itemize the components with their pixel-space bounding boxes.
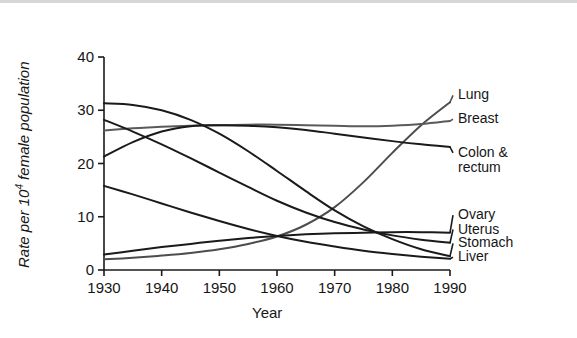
y-tick-label: 10: [46, 208, 94, 225]
series-label-colon-rectum: Colon &rectum: [458, 145, 508, 175]
leader-lines-group: [450, 95, 453, 258]
series-label-line2: rectum: [458, 160, 508, 175]
leader-line-liver: [450, 257, 453, 259]
x-tick-label: 1950: [189, 279, 249, 296]
series-group: [104, 102, 450, 259]
y-tick-label: 30: [46, 101, 94, 118]
series-label-line1: Lung: [458, 87, 489, 102]
y-tick-label: 40: [46, 48, 94, 65]
series-label-lung: Lung: [458, 87, 489, 102]
x-tick-label: 1960: [247, 279, 307, 296]
series-label-liver: Liver: [458, 249, 488, 264]
series-label-line1: Colon &: [458, 145, 508, 160]
series-label-ovary: Ovary: [458, 207, 495, 222]
y-tick-label: 20: [46, 155, 94, 172]
x-tick-label: 1970: [305, 279, 365, 296]
x-tick-label: 1940: [132, 279, 192, 296]
axis-group: [98, 57, 450, 276]
series-label-breast: Breast: [458, 111, 498, 126]
chart-figure: Rate per 104 female population Year 0102…: [0, 0, 577, 338]
series-label-line1: Ovary: [458, 207, 495, 222]
leader-line-stomach: [450, 243, 453, 256]
series-label-line1: Liver: [458, 249, 488, 264]
y-tick-label: 0: [46, 261, 94, 278]
leader-line-lung: [450, 95, 453, 102]
leader-line-breast: [450, 119, 453, 121]
x-tick-label: 1980: [362, 279, 422, 296]
x-tick-label: 1990: [420, 279, 480, 296]
x-tick-label: 1930: [74, 279, 134, 296]
leader-line-colon-rectum: [450, 147, 453, 153]
series-line-uterus: [104, 120, 450, 243]
series-line-breast: [104, 121, 450, 131]
series-label-line1: Breast: [458, 111, 498, 126]
